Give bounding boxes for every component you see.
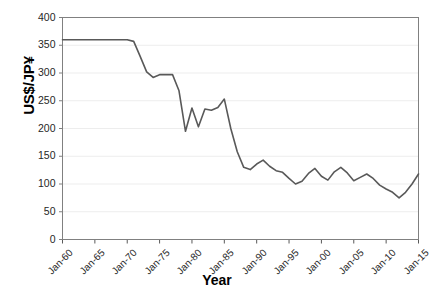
data-series-line: [63, 40, 419, 198]
y-tick-label: 0: [50, 233, 56, 245]
y-tick-label: 350: [38, 38, 56, 50]
y-tick-label: 50: [44, 205, 56, 217]
x-tick-marks: [63, 240, 419, 244]
gridlines: [63, 45, 419, 212]
y-tick-label: 250: [38, 94, 56, 106]
y-tick-marks: [59, 18, 63, 240]
y-tick-label: 100: [38, 177, 56, 189]
y-tick-label: 400: [38, 11, 56, 23]
y-tick-label: 300: [38, 66, 56, 78]
y-tick-label: 200: [38, 122, 56, 134]
chart-container: US$/JP¥ Year 050100150200250300350400 Ja…: [0, 0, 434, 298]
y-tick-label: 150: [38, 149, 56, 161]
